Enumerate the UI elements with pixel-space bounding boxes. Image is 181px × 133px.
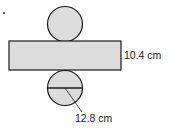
lateral-surface-rectangle xyxy=(9,41,121,70)
height-label: 10.4 cm xyxy=(124,50,161,61)
top-circle-base xyxy=(48,7,83,42)
marker-dot xyxy=(3,12,5,14)
diameter-label: 12.8 cm xyxy=(75,113,112,124)
